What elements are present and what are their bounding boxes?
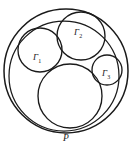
circle-packing-diagram: Γ1 Γ2 Γ3 P [0, 0, 132, 145]
label-gamma3-subscript: 3 [107, 74, 110, 80]
label-gamma2-subscript: 2 [79, 33, 82, 39]
label-gamma1-subscript: 1 [38, 58, 41, 64]
label-gamma3: Γ3 [101, 68, 110, 80]
circle-bottom-large [38, 64, 102, 128]
label-point-p: P [62, 133, 69, 143]
circle-gamma1 [18, 28, 62, 72]
figure-container: Γ1 Γ2 Γ3 P [0, 0, 132, 145]
outer-circle [4, 9, 128, 133]
label-gamma1: Γ1 [32, 52, 41, 64]
label-gamma2: Γ2 [73, 27, 82, 39]
